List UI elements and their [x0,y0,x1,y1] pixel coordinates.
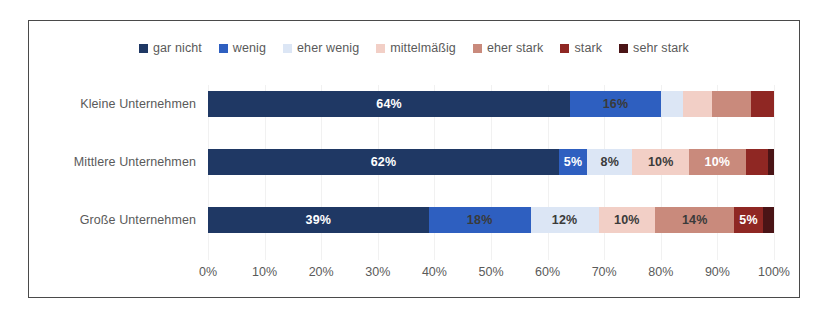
bar-segment[interactable]: 5% [559,149,587,175]
x-axis-tick-label: 0% [199,265,217,279]
legend-item[interactable]: wenig [219,41,266,55]
bar-segment[interactable]: 62% [208,149,559,175]
bar-segment-value: 39% [306,214,332,227]
legend-item-label: eher stark [487,41,544,55]
legend-swatch-icon [560,44,569,53]
legend-swatch-icon [473,44,482,53]
bar-segment-value: 5% [739,214,757,227]
x-axis-tick-label: 30% [365,265,390,279]
legend-item-label: mittelmäßig [390,41,456,55]
gridline [774,85,775,260]
bar-segment[interactable] [768,149,774,175]
bar-segment[interactable]: 5% [734,207,762,233]
legend-swatch-icon [619,44,628,53]
bar-segment-value: 5% [564,156,582,169]
bar-segment-value: 10% [614,214,640,227]
bar-segment[interactable]: 64% [208,91,570,117]
x-axis-tick-label: 50% [478,265,503,279]
x-axis-tick-label: 90% [705,265,730,279]
bar-segment-value: 8% [601,156,619,169]
bar-segment[interactable] [751,91,774,117]
x-axis-tick-label: 40% [422,265,447,279]
bar-segment[interactable]: 10% [599,207,656,233]
legend-item-label: gar nicht [153,41,202,55]
category-label: Große Unternehmen [80,207,196,233]
x-axis-tick-label: 100% [758,265,790,279]
x-axis-tick-label: 80% [648,265,673,279]
bar-segment[interactable] [746,149,769,175]
category-label: Mittlere Unternehmen [74,149,196,175]
legend-item[interactable]: mittelmäßig [376,41,456,55]
legend-swatch-icon [139,44,148,53]
bar-segment[interactable]: 14% [655,207,734,233]
bar-segment[interactable]: 18% [429,207,531,233]
legend-swatch-icon [283,44,292,53]
bar-row: Große Unternehmen39%18%12%10%14%5% [208,207,774,233]
legend-item-label: wenig [233,41,266,55]
bar-segment[interactable]: 8% [587,149,632,175]
x-axis-tick-label: 10% [252,265,277,279]
chart-legend: gar nichtwenigeher wenigmittelmäßigeher … [29,41,799,55]
x-axis-tick-label: 20% [309,265,334,279]
x-axis: 0%10%20%30%40%50%60%70%80%90%100% [208,265,774,283]
legend-swatch-icon [376,44,385,53]
bar-segment-value: 14% [682,214,708,227]
bar-segment[interactable] [763,207,774,233]
bar-segment-value: 10% [705,156,731,169]
bar-segment-value: 18% [467,214,493,227]
x-axis-tick-label: 70% [592,265,617,279]
legend-item-label: sehr stark [633,41,689,55]
legend-swatch-icon [219,44,228,53]
x-axis-tick-label: 60% [535,265,560,279]
bar-segment[interactable] [683,91,711,117]
bar-segment[interactable]: 16% [570,91,661,117]
bar-segment-value: 16% [603,98,629,111]
bar-segment-value: 12% [552,214,578,227]
bar-segment[interactable]: 39% [208,207,429,233]
legend-item[interactable]: eher wenig [283,41,359,55]
legend-item[interactable]: stark [560,41,602,55]
legend-item[interactable]: sehr stark [619,41,689,55]
bar-segment[interactable] [712,91,752,117]
bar-segment[interactable] [661,91,684,117]
chart-frame: gar nichtwenigeher wenigmittelmäßigeher … [28,20,800,298]
category-label: Kleine Unternehmen [80,91,196,117]
bar-segment-value: 10% [648,156,674,169]
bar-segment[interactable]: 12% [531,207,599,233]
legend-item-label: eher wenig [297,41,359,55]
plot-area: Kleine Unternehmen64%16%Mittlere Unterne… [208,85,774,260]
bar-segment-value: 62% [371,156,397,169]
bar-segment[interactable]: 10% [632,149,689,175]
legend-item[interactable]: eher stark [473,41,544,55]
bar-row: Mittlere Unternehmen62%5%8%10%10% [208,149,774,175]
legend-item[interactable]: gar nicht [139,41,202,55]
bar-row: Kleine Unternehmen64%16% [208,91,774,117]
bar-segment[interactable]: 10% [689,149,746,175]
bar-segment-value: 64% [376,98,402,111]
legend-item-label: stark [574,41,602,55]
